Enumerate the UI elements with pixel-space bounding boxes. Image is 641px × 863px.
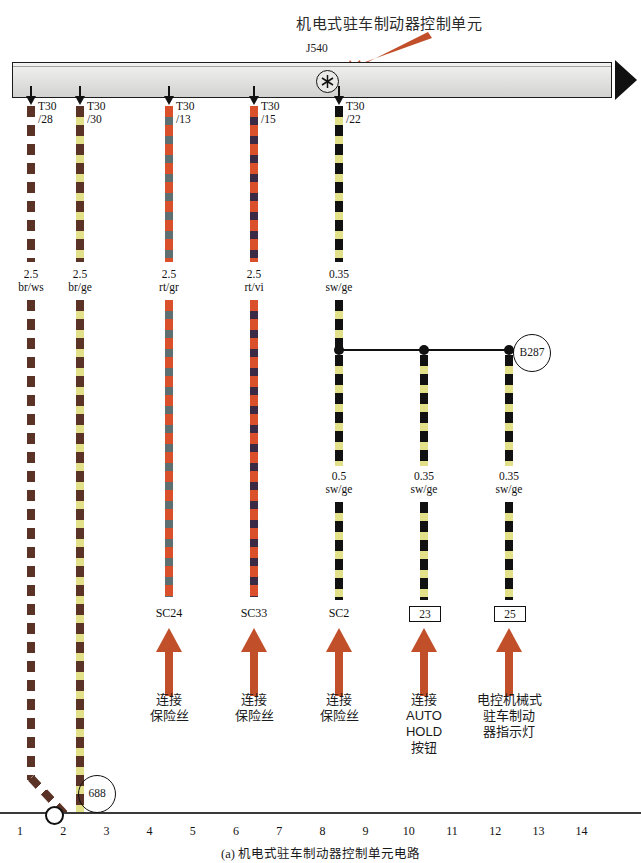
terminal-label: T30/13 <box>176 100 195 125</box>
column-number: 4 <box>138 824 162 839</box>
wire-spec-label: 0.35sw/ge <box>474 470 544 496</box>
connection-id-label: SC33 <box>224 606 284 621</box>
splice-junction-dot <box>419 345 429 355</box>
wire-spec-label: 0.35sw/ge <box>304 268 374 294</box>
column-number: 9 <box>354 824 378 839</box>
destination-line: 器指示灯 <box>459 724 559 740</box>
splice-junction-dot <box>334 345 344 355</box>
column-number: 1 <box>8 824 32 839</box>
destination-arrow-icon <box>156 628 182 688</box>
connection-id-label: SC24 <box>139 606 199 621</box>
fuse-id-box: 25 <box>494 606 526 622</box>
wire-segment <box>505 502 513 600</box>
wire-segment <box>27 300 35 780</box>
ground-node <box>45 806 64 825</box>
column-number: 10 <box>397 824 421 839</box>
column-number: 14 <box>570 824 594 839</box>
destination-arrow-icon <box>496 628 522 688</box>
terminal-stem <box>30 86 32 98</box>
terminal-stem <box>338 86 340 98</box>
terminal-label: T30/22 <box>346 100 365 125</box>
wire-segment <box>250 300 258 597</box>
column-number: 8 <box>310 824 334 839</box>
figure-caption: (a) 机电式驻车制动器控制单元电路 <box>0 843 641 862</box>
column-number: 5 <box>181 824 205 839</box>
destination-arrow-icon <box>241 628 267 688</box>
terminal-stem <box>253 86 255 98</box>
terminal-stem <box>168 86 170 98</box>
column-number: 3 <box>94 824 118 839</box>
terminal-label: T30/28 <box>38 100 57 125</box>
wire-segment <box>335 106 343 262</box>
column-number: 13 <box>526 824 550 839</box>
wire-segment <box>76 106 84 262</box>
terminal-label: T30/30 <box>87 100 106 125</box>
destination-arrow-icon <box>326 628 352 688</box>
ground-id-badge: 688 <box>78 775 116 813</box>
destination-line: 按钮 <box>374 740 474 756</box>
destination-line: 驻车制动 <box>459 708 559 724</box>
column-number: 6 <box>224 824 248 839</box>
control-unit-id: J540 <box>306 42 328 54</box>
wire-segment <box>335 355 343 466</box>
wire-segment <box>420 502 428 600</box>
wire-segment <box>76 300 84 812</box>
wire-segment <box>165 300 173 597</box>
column-number: 2 <box>51 824 75 839</box>
wire-segment <box>505 355 513 466</box>
destination-arrow-icon <box>411 628 437 688</box>
control-unit-bar <box>12 62 612 98</box>
wire-segment <box>250 106 258 262</box>
wire-spec-label: 0.5sw/ge <box>304 470 374 496</box>
connection-id-label: SC2 <box>309 606 369 621</box>
wire-segment <box>420 355 428 466</box>
wire-segment <box>335 502 343 600</box>
wire-spec-label: 0.35sw/ge <box>389 470 459 496</box>
wire-segment <box>165 106 173 262</box>
asterisk-in-circle-icon <box>316 70 339 93</box>
terminal-stem <box>79 86 81 98</box>
wire-spec-label: 2.5rt/vi <box>219 268 289 294</box>
wire-spec-label: 2.5rt/gr <box>134 268 204 294</box>
destination-label: 电控机械式驻车制动器指示灯 <box>459 692 559 740</box>
destination-line: 电控机械式 <box>459 692 559 708</box>
column-number: 12 <box>483 824 507 839</box>
column-number: 11 <box>440 824 464 839</box>
continuation-arrow-icon <box>615 60 637 100</box>
wire-segment <box>27 106 35 262</box>
fuse-id-box: 23 <box>409 606 441 622</box>
column-number: 7 <box>267 824 291 839</box>
wire-spec-label: 2.5br/ge <box>45 268 115 294</box>
terminal-label: T30/15 <box>261 100 280 125</box>
splice-id-badge: B287 <box>513 334 551 372</box>
